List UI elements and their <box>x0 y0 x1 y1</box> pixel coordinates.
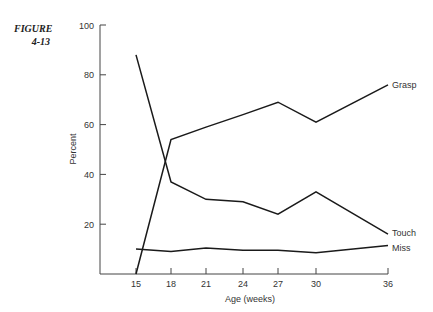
x-tick-label: 30 <box>311 279 321 289</box>
x-tick-label: 21 <box>201 279 211 289</box>
x-tick-label: 36 <box>383 279 393 289</box>
axes: 2040608010015182124273036 <box>79 21 393 290</box>
series-label-miss: Miss <box>392 243 411 253</box>
y-tick-label: 80 <box>84 70 94 80</box>
x-tick-label: 15 <box>131 279 141 289</box>
y-tick-label: 40 <box>84 170 94 180</box>
x-tick-label: 24 <box>238 279 248 289</box>
x-tick-label: 27 <box>273 279 283 289</box>
series-label-grasp: Grasp <box>392 80 417 90</box>
series-label-touch: Touch <box>392 228 416 238</box>
series-lines: GraspTouchMiss <box>136 55 417 274</box>
y-tick-label: 20 <box>84 220 94 230</box>
series-line-touch <box>136 55 388 234</box>
y-tick-label: 100 <box>79 21 94 31</box>
x-tick-label: 18 <box>166 279 176 289</box>
line-chart: 2040608010015182124273036 GraspTouchMiss… <box>0 0 433 312</box>
x-axis-label: Age (weeks) <box>225 294 275 304</box>
series-line-grasp <box>136 85 388 274</box>
series-line-miss <box>136 245 388 252</box>
y-axis-label: Percent <box>68 133 78 165</box>
y-tick-label: 60 <box>84 120 94 130</box>
